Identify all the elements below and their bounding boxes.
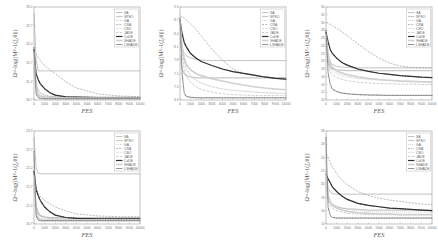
y-tick-label: 32 xyxy=(321,13,325,17)
x-tick-label: 6000 xyxy=(94,102,101,106)
x-tick-label: 7000 xyxy=(397,102,404,106)
y-tick-label: 18 xyxy=(321,196,325,200)
y-tick-label: 14 xyxy=(321,222,325,226)
x-tick-label: 3000 xyxy=(62,226,69,230)
y-tick-label: 12 xyxy=(321,90,325,94)
y-tick-label: 24 xyxy=(321,44,325,48)
legend-item: LSHADE xyxy=(124,167,138,171)
y-tick-label: 23.0 xyxy=(26,129,32,133)
y-tick-label: 20.7 xyxy=(26,222,32,226)
y-tick-label: 6.9 xyxy=(174,98,179,102)
y-tick-label: 31.2 xyxy=(26,80,32,84)
x-axis-label: FES xyxy=(80,231,93,238)
x-tick-label: 9000 xyxy=(418,226,425,230)
x-tick-label: 3000 xyxy=(354,226,361,230)
x-tick-label: 10000 xyxy=(282,102,291,106)
x-tick-label: 2000 xyxy=(344,102,351,106)
y-tick-label: 7.5 xyxy=(174,72,179,76)
y-tick-label: 8.4 xyxy=(174,32,179,36)
x-tick-label: 5000 xyxy=(375,226,382,230)
y-tick-label: 33.0 xyxy=(26,5,32,9)
x-tick-label: 3000 xyxy=(208,102,215,106)
y-tick-label: 31.7 xyxy=(26,61,32,65)
x-tick-label: 4000 xyxy=(365,226,372,230)
y-axis-label: Ω=-log(|M^-1(ξ,θ)|) xyxy=(304,153,311,201)
x-tick-label: 10000 xyxy=(136,102,145,106)
y-tick-label: 32.2 xyxy=(26,42,32,46)
y-tick-label: 30.7 xyxy=(26,98,32,102)
y-tick-label: 32.7 xyxy=(26,24,32,28)
x-tick-label: 5000 xyxy=(83,102,90,106)
x-tick-label: 9000 xyxy=(418,102,425,106)
x-axis-label: FES xyxy=(372,107,385,114)
chart-top-left: 0100020003000400050006000700080009000100… xyxy=(0,0,146,118)
y-tick-label: 22.2 xyxy=(26,166,32,170)
legend-item: LSHADE xyxy=(416,43,430,47)
y-tick-label: 28 xyxy=(321,129,325,133)
x-axis-label: FES xyxy=(226,107,239,114)
x-tick-label: 2000 xyxy=(198,102,205,106)
x-tick-label: 9000 xyxy=(272,102,279,106)
y-tick-label: 14 xyxy=(321,83,325,87)
x-tick-label: 3000 xyxy=(354,102,361,106)
x-tick-label: 0 xyxy=(33,226,35,230)
x-tick-label: 1000 xyxy=(41,226,48,230)
y-axis-label: Ω=-log(|M^-1(ξ,θ)|) xyxy=(158,29,165,77)
y-axis-label: Ω=-log(|M^-1(ξ,θ)|) xyxy=(304,29,311,77)
x-tick-label: 8000 xyxy=(261,102,268,106)
x-axis-label: FES xyxy=(372,231,385,238)
chart-bottom-right: 0100020003000400050006000700080009000100… xyxy=(292,124,438,242)
x-tick-label: 8000 xyxy=(115,226,122,230)
x-tick-label: 8000 xyxy=(407,102,414,106)
y-tick-label: 22 xyxy=(321,169,325,173)
x-tick-label: 4000 xyxy=(219,102,226,106)
y-tick-label: 20 xyxy=(321,59,325,63)
x-tick-label: 10000 xyxy=(428,102,437,106)
x-tick-label: 2000 xyxy=(344,226,351,230)
x-tick-label: 9000 xyxy=(126,226,133,230)
y-tick-label: 7.2 xyxy=(174,85,179,89)
y-tick-label: 10 xyxy=(321,98,325,102)
x-tick-label: 0 xyxy=(325,102,327,106)
x-tick-label: 7000 xyxy=(105,102,112,106)
x-tick-label: 9000 xyxy=(126,102,133,106)
x-tick-label: 2000 xyxy=(52,226,59,230)
y-tick-label: 24 xyxy=(321,156,325,160)
x-tick-label: 4000 xyxy=(73,226,80,230)
legend: SASPSOGACRACBOJADECoDESHADELSHADE xyxy=(407,9,431,47)
legend-item: LSHADE xyxy=(124,43,138,47)
y-tick-label: 22 xyxy=(321,52,325,56)
x-tick-label: 5000 xyxy=(83,226,90,230)
legend-item: LSHADE xyxy=(416,167,430,171)
y-tick-label: 8.7 xyxy=(174,18,179,22)
x-tick-label: 5000 xyxy=(375,102,382,106)
legend: SASPSOGACRACBOJADECoDESHADELSHADE xyxy=(115,133,139,171)
x-tick-label: 0 xyxy=(325,226,327,230)
x-tick-label: 1000 xyxy=(333,226,340,230)
x-tick-label: 8000 xyxy=(407,226,414,230)
legend: SASPSOGACRACBOJADECoDESHADELSHADE xyxy=(407,133,431,171)
legend: SASPSOGACRACBOJADECoDESHADELSHADE xyxy=(115,9,139,47)
y-tick-label: 22.7 xyxy=(26,148,32,152)
legend: SASPSOGACRACBOJADECoDESHADELSHADE xyxy=(261,9,285,47)
y-tick-label: 21.2 xyxy=(26,204,32,208)
x-tick-label: 6000 xyxy=(386,102,393,106)
y-tick-label: 28 xyxy=(321,28,325,32)
y-tick-label: 16 xyxy=(321,209,325,213)
x-tick-label: 7000 xyxy=(105,226,112,230)
chart-bottom-left: 0100020003000400050006000700080009000100… xyxy=(0,124,146,242)
x-tick-label: 0 xyxy=(179,102,181,106)
x-tick-label: 6000 xyxy=(94,226,101,230)
x-tick-label: 10000 xyxy=(136,226,145,230)
y-tick-label: 16 xyxy=(321,75,325,79)
x-tick-label: 6000 xyxy=(240,102,247,106)
legend-item: LSHADE xyxy=(270,43,284,47)
x-tick-label: 4000 xyxy=(73,102,80,106)
y-tick-label: 34 xyxy=(321,5,325,9)
y-tick-label: 8.1 xyxy=(174,45,179,49)
y-tick-label: 30 xyxy=(321,21,325,25)
y-tick-label: 20 xyxy=(321,182,325,186)
x-tick-label: 7000 xyxy=(397,226,404,230)
y-tick-label: 26 xyxy=(321,36,325,40)
x-tick-label: 1000 xyxy=(187,102,194,106)
